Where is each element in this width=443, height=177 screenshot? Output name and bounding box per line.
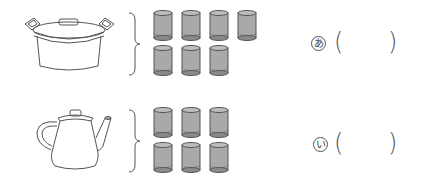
cup-icon bbox=[237, 10, 257, 41]
cup-icon bbox=[153, 142, 173, 173]
brace-icon bbox=[127, 12, 141, 76]
cup-icon bbox=[181, 10, 201, 41]
cup-icon bbox=[153, 107, 173, 138]
pot-icon bbox=[22, 12, 117, 74]
brace-icon bbox=[127, 109, 141, 173]
cup-icon bbox=[209, 142, 229, 173]
answer-label-i: い bbox=[313, 137, 328, 152]
cup-icon bbox=[209, 45, 229, 76]
cup-icon bbox=[209, 107, 229, 138]
open-paren: ( bbox=[334, 131, 343, 155]
cup-icon bbox=[153, 10, 173, 41]
cup-icon bbox=[181, 142, 201, 173]
close-paren: ) bbox=[388, 131, 397, 155]
open-paren: ( bbox=[334, 30, 343, 54]
cup-icon bbox=[153, 45, 173, 76]
close-paren: ) bbox=[388, 30, 397, 54]
answer-blank-i[interactable] bbox=[348, 133, 388, 155]
teapot-icon bbox=[33, 108, 113, 172]
cup-icon bbox=[181, 107, 201, 138]
cup-icon bbox=[181, 45, 201, 76]
answer-label-a: あ bbox=[311, 36, 326, 51]
cup-icon bbox=[209, 10, 229, 41]
answer-blank-a[interactable] bbox=[348, 32, 388, 54]
